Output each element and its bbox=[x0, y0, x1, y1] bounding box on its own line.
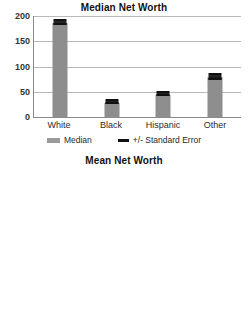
y-axis-tick-label: 200 bbox=[15, 11, 30, 21]
error-bar-cap-lower bbox=[105, 102, 118, 104]
chart-title-median: Median Net Worth bbox=[0, 2, 248, 13]
bar-group-median bbox=[34, 16, 241, 117]
y-axis-tick-label: 50 bbox=[20, 87, 30, 97]
legend-swatch-error-icon bbox=[118, 139, 129, 142]
y-axis-tick-label: 150 bbox=[15, 36, 30, 46]
error-bar-cap-upper bbox=[157, 91, 170, 93]
x-axis-tick-label: Hispanic bbox=[137, 120, 189, 130]
legend-label-series: Median bbox=[64, 135, 92, 145]
bar-slot bbox=[86, 16, 138, 117]
legend-item-series: Median bbox=[47, 135, 92, 145]
bar bbox=[156, 95, 171, 117]
plot-area-median: 050100150200 bbox=[33, 16, 241, 118]
legend-label-error: +/- Standard Error bbox=[133, 135, 201, 145]
legend-swatch-series-icon bbox=[47, 138, 60, 143]
bar-slot bbox=[189, 16, 241, 117]
bar bbox=[104, 103, 119, 117]
chart-title-mean: Mean Net Worth bbox=[0, 155, 248, 166]
error-bar-cap-upper bbox=[105, 99, 118, 101]
error-bar-cap-lower bbox=[53, 23, 66, 25]
bar-slot bbox=[34, 16, 86, 117]
x-axis-labels-median: WhiteBlackHispanicOther bbox=[33, 120, 241, 130]
error-bar-cap-upper bbox=[53, 19, 66, 21]
bar bbox=[52, 23, 67, 117]
x-axis-tick-label: Other bbox=[189, 120, 241, 130]
bar bbox=[208, 77, 223, 117]
y-axis-tick-label: 100 bbox=[15, 62, 30, 72]
legend-item-error: +/- Standard Error bbox=[118, 135, 201, 145]
median-net-worth-chart: Median Net Worth 050100150200 WhiteBlack… bbox=[0, 0, 248, 155]
x-axis-tick-label: White bbox=[33, 120, 85, 130]
error-bar-cap-upper bbox=[209, 73, 222, 75]
y-axis-tick-label: 0 bbox=[25, 112, 30, 122]
bar-slot bbox=[138, 16, 190, 117]
legend-median: Median +/- Standard Error bbox=[0, 135, 248, 145]
mean-net-worth-chart: Mean Net Worth 02004006008001000 WhiteBl… bbox=[0, 155, 248, 313]
error-bar-cap-lower bbox=[157, 94, 170, 96]
error-bar-cap-lower bbox=[209, 78, 222, 80]
x-axis-tick-label: Black bbox=[85, 120, 137, 130]
